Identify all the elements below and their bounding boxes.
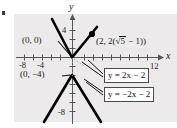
marked-point-dot	[89, 31, 95, 37]
y-axis-label: y	[69, 2, 73, 12]
marked-label-suffix: − 1))	[126, 36, 146, 46]
equation-box-lower: y = −2x − 2	[104, 87, 154, 102]
figure-container: y x -8 -4 12 4 -8 (0, 0) (0, −4) (2, 2(√…	[0, 0, 177, 128]
point-label-vertex-low: (0, −4)	[20, 70, 45, 79]
y-tick-label-neg8: -8	[58, 108, 65, 117]
x-axis-arrow	[158, 55, 164, 61]
equation-box-upper: y = 2x − 2	[104, 68, 149, 83]
x-axis-label: x	[166, 51, 170, 61]
point-label-origin: (0, 0)	[22, 36, 42, 45]
y-axis-arrow	[70, 14, 76, 20]
leader-line-vertex-low	[62, 75, 70, 76]
y-tick-label-4: 4	[62, 26, 66, 35]
point-label-marked: (2, 2(√5 − 1))	[96, 36, 146, 46]
leader-line-eq-lower	[84, 79, 103, 92]
curve-upper-v	[52, 19, 97, 58]
marked-label-prefix: (2, 2(	[96, 36, 116, 46]
leader-line-eq-lower-2	[86, 82, 103, 95]
x-tick-label-12: 12	[150, 62, 159, 71]
